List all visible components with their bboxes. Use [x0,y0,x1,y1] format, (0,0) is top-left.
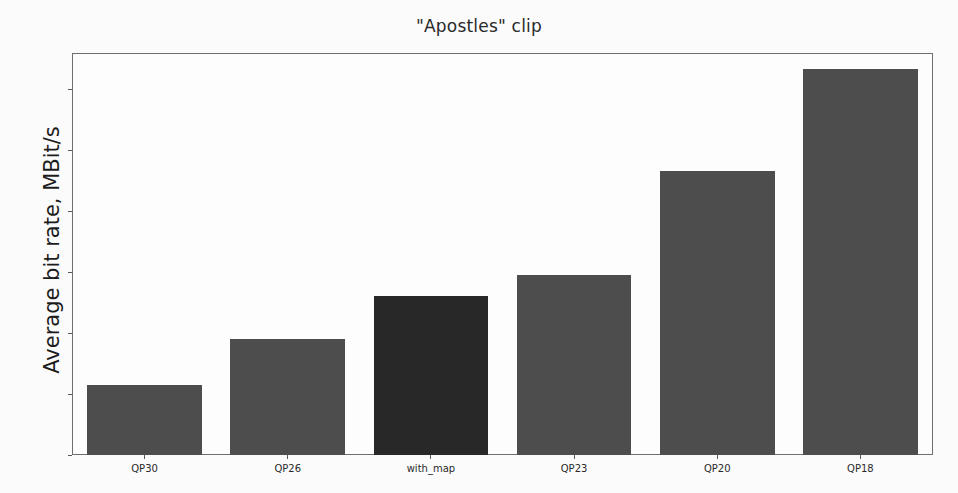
x-tick-mark [574,455,575,459]
bar-QP26 [230,339,345,455]
x-tick-mark [144,455,145,459]
x-tick-mark [717,455,718,459]
chart-title: "Apostles" clip [0,16,958,36]
bar-QP20 [660,171,775,455]
y-axis-label: Average bit rate, MBit/s [40,50,64,450]
x-tick-label: QP18 [800,463,920,474]
y-tick-mark [68,394,72,395]
x-tick-label: QP26 [228,463,348,474]
x-tick-label: QP30 [85,463,205,474]
x-tick-label: with_map [371,463,491,474]
bar-QP30 [87,385,202,455]
y-tick-mark [68,333,72,334]
chart-figure: "Apostles" clip Average bit rate, MBit/s… [0,0,958,493]
x-tick-mark [430,455,431,459]
y-tick-mark [68,455,72,456]
y-tick-mark [68,89,72,90]
y-tick-mark [68,211,72,212]
bar-with_map [374,296,489,455]
bar-QP18 [803,69,918,455]
y-tick-mark [68,150,72,151]
bar-QP23 [517,275,632,455]
x-tick-mark [287,455,288,459]
x-tick-label: QP23 [514,463,634,474]
x-tick-mark [860,455,861,459]
plot-area [73,54,932,455]
x-tick-label: QP20 [657,463,777,474]
y-tick-mark [68,272,72,273]
